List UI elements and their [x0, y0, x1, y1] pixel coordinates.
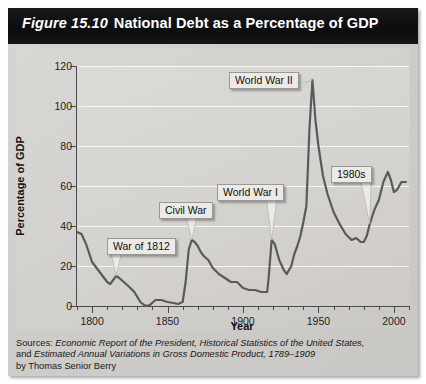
x-axis-tick-minor — [77, 306, 78, 310]
x-axis-tick-minor — [349, 306, 350, 310]
x-axis-tick-minor — [198, 306, 199, 310]
y-axis-tick-label: 40 — [60, 220, 72, 232]
x-axis-tick-minor — [334, 306, 335, 310]
x-axis-tick-minor — [183, 306, 184, 310]
y-axis-tick-label: 60 — [60, 180, 72, 192]
x-axis-tick-minor — [122, 306, 123, 310]
sources-line1-italic: Economic Report of the President, Histor… — [55, 338, 364, 348]
sources-label: Sources: — [16, 338, 53, 348]
sources-line2-prefix: and — [16, 349, 32, 359]
x-axis-tick-minor — [137, 306, 138, 310]
sources-note: Sources: Economic Report of the Presiden… — [16, 338, 410, 372]
x-axis-tick — [394, 306, 395, 313]
callout-pointer — [187, 218, 197, 240]
plot-area: 020406080100120 18001850190019502000 War… — [76, 66, 409, 307]
x-axis-tick — [92, 306, 93, 313]
y-axis-title: Percentage of GDP — [14, 136, 26, 236]
x-axis-tick-minor — [258, 306, 259, 310]
y-axis-tick-label: 120 — [54, 60, 72, 72]
y-axis-tick-label: 80 — [60, 140, 72, 152]
callout-pointer — [111, 254, 121, 276]
y-axis-tick-label: 100 — [54, 100, 72, 112]
x-axis-tick-minor — [409, 306, 410, 310]
figure-container: Figure 15.10National Debt as a Percentag… — [8, 8, 418, 376]
x-axis-tick — [243, 306, 244, 313]
figure-number: Figure 15.10 — [22, 15, 108, 31]
annotation-war-of-1812: War of 1812 — [107, 238, 176, 255]
x-axis-tick-minor — [107, 306, 108, 310]
sources-line3: by Thomas Senior Berry — [16, 361, 116, 371]
x-axis-tick-minor — [152, 306, 153, 310]
page-title: Figure 15.10National Debt as a Percentag… — [22, 15, 379, 31]
x-axis-tick-minor — [273, 306, 274, 310]
x-axis-tick-label: 1850 — [156, 315, 179, 327]
callout-pointer — [267, 200, 277, 240]
annotation-1980s: 1980s — [331, 166, 372, 183]
x-axis-tick — [318, 306, 319, 313]
x-axis-tick-label: 1950 — [307, 315, 330, 327]
chart-panel: Percentage of GDP Year 020406080100120 1… — [16, 48, 410, 330]
x-axis-tick-minor — [364, 306, 365, 310]
x-axis-tick-minor — [228, 306, 229, 310]
x-axis-tick-label: 1900 — [231, 315, 254, 327]
y-axis-tick-label: 20 — [60, 260, 72, 272]
x-axis-tick-minor — [213, 306, 214, 310]
callout-pointer — [361, 182, 371, 224]
sources-line2-italic: Estimated Annual Variations in Gross Dom… — [34, 349, 315, 359]
x-axis-tick — [168, 306, 169, 313]
y-axis-tick-label: 0 — [66, 300, 72, 312]
annotation-world-war-i: World War I — [217, 184, 284, 201]
annotation-civil-war: Civil War — [159, 202, 213, 219]
x-axis-tick-minor — [288, 306, 289, 310]
x-axis-tick-label: 1800 — [80, 315, 103, 327]
x-axis-tick-minor — [379, 306, 380, 310]
annotation-world-war-ii: World War II — [229, 72, 299, 89]
x-axis-tick-minor — [303, 306, 304, 310]
figure-title-bar: Figure 15.10National Debt as a Percentag… — [8, 8, 418, 44]
figure-title-text: National Debt as a Percentage of GDP — [114, 15, 379, 31]
x-axis-tick-label: 2000 — [382, 315, 405, 327]
